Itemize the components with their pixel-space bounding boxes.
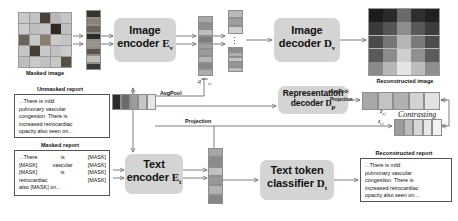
image-patch bbox=[61, 35, 71, 45]
z-text-row bbox=[394, 119, 442, 134]
token-cell bbox=[208, 195, 223, 204]
token-cell bbox=[362, 92, 378, 110]
text-token-classifier-module[interactable]: Text token classifier Dt bbox=[260, 160, 334, 200]
report-token: is bbox=[61, 154, 65, 162]
image-decoder-line2-text: decoder bbox=[279, 37, 321, 49]
report-token: also [MASK] on... bbox=[19, 184, 61, 192]
image-patch bbox=[369, 22, 383, 35]
token-cell bbox=[198, 49, 213, 56]
reconstructed-report-caption: Reconstructed report bbox=[352, 150, 456, 156]
token-cell bbox=[86, 63, 101, 71]
token-cell bbox=[208, 185, 223, 194]
representation-decoder-line2: decoder Dp bbox=[291, 98, 335, 112]
text-encoder-line2: encoder Et bbox=[127, 171, 182, 189]
image-encoder-module[interactable]: Image encoder Ev bbox=[114, 18, 176, 62]
token-cell bbox=[409, 92, 425, 110]
image-encoder-line2: encoder Ev bbox=[117, 37, 173, 55]
reconstructed-image-grid bbox=[369, 9, 439, 75]
report-token: [MASK] bbox=[88, 169, 106, 177]
image-patch bbox=[19, 57, 29, 67]
report-token: is bbox=[61, 169, 65, 177]
token-cell bbox=[404, 119, 414, 136]
report-line: [MASK]is[MASK] bbox=[19, 169, 106, 177]
token-cell bbox=[208, 157, 223, 166]
report-line: ...There is mild bbox=[19, 98, 106, 106]
token-cell bbox=[198, 29, 213, 36]
image-patch bbox=[425, 49, 439, 62]
token-cell bbox=[112, 94, 121, 110]
image-patch bbox=[40, 35, 50, 45]
image-patch bbox=[61, 13, 71, 23]
token-cell bbox=[432, 119, 442, 136]
image-patch bbox=[411, 62, 425, 75]
projection-text-label: Projection bbox=[185, 118, 211, 124]
report-token: [MASK] bbox=[19, 169, 37, 177]
text-encoder-line2-text: encoder bbox=[127, 171, 169, 183]
unmasked-report-box: ...There is mildpulmonary vascularconges… bbox=[14, 94, 110, 138]
token-cell bbox=[198, 23, 213, 30]
token-cell bbox=[208, 167, 223, 176]
report-line: increased retrocardiac bbox=[19, 121, 106, 129]
image-patch bbox=[19, 46, 29, 56]
report-token: retrocardiac bbox=[19, 177, 47, 185]
masked-report-box: ...Thereis[MASK][MASK]vascular[MASK][MAS… bbox=[14, 150, 110, 196]
report-token: [MASK] bbox=[19, 162, 37, 170]
projection-small-label: Projection bbox=[330, 97, 352, 102]
ellipsis-dots bbox=[228, 34, 241, 47]
text-encoder-line1: Text bbox=[143, 158, 164, 171]
token-cell bbox=[208, 148, 223, 157]
token-cell bbox=[121, 94, 130, 110]
image-patch bbox=[425, 36, 439, 49]
text-token-classifier-symbol: Dt bbox=[317, 177, 327, 189]
text-encoder-module[interactable]: Text encoder Et bbox=[125, 154, 183, 194]
token-cell bbox=[86, 33, 101, 41]
image-patch bbox=[397, 22, 411, 35]
token-cell bbox=[86, 18, 101, 26]
image-patch bbox=[369, 9, 383, 22]
text-token-classifier-line2: classifier Dt bbox=[267, 177, 327, 195]
image-patch bbox=[51, 35, 61, 45]
image-patch bbox=[383, 49, 397, 62]
representation-decoder-line2-text: decoder bbox=[291, 98, 323, 108]
token-cell bbox=[228, 18, 243, 26]
image-patch bbox=[369, 36, 383, 49]
image-patch bbox=[397, 36, 411, 49]
contrasting-label: Contrasting bbox=[398, 110, 436, 119]
image-patch bbox=[40, 57, 50, 67]
image-patch bbox=[383, 62, 397, 75]
image-patch bbox=[61, 57, 71, 67]
image-patch bbox=[30, 35, 40, 45]
image-patch bbox=[411, 36, 425, 49]
token-cell bbox=[423, 119, 433, 136]
report-line: also [MASK] on... bbox=[19, 184, 106, 192]
report-line: pulmonary vascular bbox=[19, 106, 106, 114]
token-cell bbox=[198, 16, 213, 23]
z-visual-label: zv,i bbox=[380, 108, 386, 116]
avgpool-main-label: AvgPool bbox=[160, 90, 182, 96]
image-patch bbox=[425, 22, 439, 35]
report-line: ...There is mild bbox=[365, 162, 448, 170]
token-cell bbox=[130, 94, 139, 110]
avgpool-small-label: AvgPool bbox=[330, 89, 348, 94]
masked-image-caption: Masked image bbox=[10, 70, 80, 76]
image-patch bbox=[411, 22, 425, 35]
report-line: retrocardiac[MASK] bbox=[19, 177, 106, 185]
reconstructed-report-box: ...There is mildpulmonary vascularconges… bbox=[360, 158, 452, 202]
token-cell bbox=[86, 48, 101, 56]
token-cell bbox=[393, 92, 409, 110]
reconstructed-image bbox=[368, 8, 440, 76]
image-patch bbox=[51, 24, 61, 34]
image-decoder-line2: decoder Dv bbox=[279, 37, 335, 55]
report-line: opacity also seen on... bbox=[19, 128, 106, 136]
token-cell bbox=[394, 119, 404, 136]
image-encoder-symbol: Ev bbox=[162, 37, 173, 49]
image-patch bbox=[30, 46, 40, 56]
image-encoder-line1: Image bbox=[129, 24, 160, 37]
image-patch bbox=[19, 24, 29, 34]
masked-image-grid bbox=[19, 13, 71, 67]
image-decoder-module[interactable]: Image decoder Dv bbox=[274, 18, 340, 62]
image-patch bbox=[411, 49, 425, 62]
text-encoder-symbol: Et bbox=[172, 171, 181, 183]
image-patch bbox=[397, 49, 411, 62]
q-visual-label: qsumv,i bbox=[198, 76, 211, 86]
